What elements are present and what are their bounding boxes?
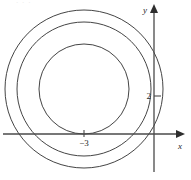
x-axis-label: x	[177, 141, 182, 151]
y-axis-label: y	[142, 5, 147, 15]
concentric-circles-figure: · · · y x 2 −3	[0, 0, 191, 180]
y-tick-label-2: 2	[147, 91, 152, 101]
y-axis-arrow-icon	[150, 4, 158, 13]
graph-canvas: y x 2 −3	[0, 0, 191, 180]
inner-circle-curve	[39, 44, 129, 134]
x-tick-label-minus3: −3	[79, 138, 89, 148]
x-axis-arrow-icon	[176, 130, 185, 138]
